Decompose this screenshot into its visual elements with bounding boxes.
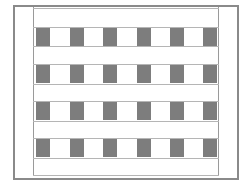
grid-cell: [70, 28, 84, 46]
grid-area: [33, 7, 219, 176]
grid-line: [33, 27, 219, 28]
grid-line: [33, 101, 219, 102]
grid-line: [33, 64, 219, 65]
grid-cell: [36, 102, 50, 120]
grid-cell: [137, 65, 151, 83]
grid-line: [33, 84, 219, 85]
grid-line: [33, 8, 219, 9]
grid-cell: [203, 28, 217, 46]
grid-line: [33, 138, 219, 139]
grid-cell: [70, 65, 84, 83]
grid-cell: [70, 102, 84, 120]
grid-cell: [36, 65, 50, 83]
grid-line: [33, 158, 219, 159]
grid-cell: [36, 28, 50, 46]
grid-cell: [170, 139, 184, 157]
grid-line: [33, 175, 219, 176]
grid-cell: [137, 28, 151, 46]
grid-cell: [70, 139, 84, 157]
grid-cell: [36, 139, 50, 157]
grid-cell: [170, 102, 184, 120]
grid-cell: [203, 65, 217, 83]
grid-cell: [103, 102, 117, 120]
grid-cell: [170, 28, 184, 46]
grid-cell: [170, 65, 184, 83]
grid-line: [33, 121, 219, 122]
grid-cell: [137, 102, 151, 120]
grid-cell: [203, 139, 217, 157]
grid-line: [33, 46, 219, 47]
grid-cell: [203, 102, 217, 120]
grid-cell: [103, 139, 117, 157]
grid-cell: [103, 65, 117, 83]
grid-cell: [103, 28, 117, 46]
grid-cell: [137, 139, 151, 157]
